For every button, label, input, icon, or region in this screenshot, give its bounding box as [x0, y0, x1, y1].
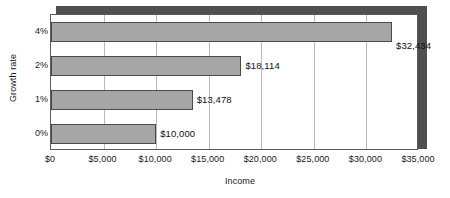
y-tick-label: 1% [18, 94, 48, 104]
bar [51, 22, 392, 42]
y-axis-title-text: Growth rate [8, 53, 18, 101]
x-tick-label: $35,000 [401, 154, 434, 164]
y-tick-label: 0% [18, 128, 48, 138]
x-tick-label: $15,000 [191, 154, 224, 164]
bar [51, 56, 241, 76]
x-tick-label: $25,000 [296, 154, 329, 164]
bar [51, 124, 156, 144]
bar-value-label: $32,434 [396, 40, 431, 51]
x-tick-label: $10,000 [139, 154, 172, 164]
x-tick-label: $5,000 [88, 154, 116, 164]
bar-value-label: $13,478 [197, 94, 232, 105]
bar-chart: Growth rate Income 0%$10,0001%$13,4782%$… [0, 0, 450, 198]
x-tick-label: $30,000 [349, 154, 382, 164]
x-axis-title: Income [50, 176, 430, 186]
bar-value-label: $18,114 [245, 60, 279, 71]
bar-value-label: $10,000 [160, 128, 195, 139]
x-tick-label: $20,000 [244, 154, 277, 164]
plot-area [50, 14, 418, 150]
y-tick-label: 2% [18, 60, 48, 70]
bar [51, 90, 193, 110]
x-tick-label: $0 [45, 154, 55, 164]
plot-right-shadow [418, 6, 427, 149]
y-tick-label: 4% [18, 26, 48, 36]
